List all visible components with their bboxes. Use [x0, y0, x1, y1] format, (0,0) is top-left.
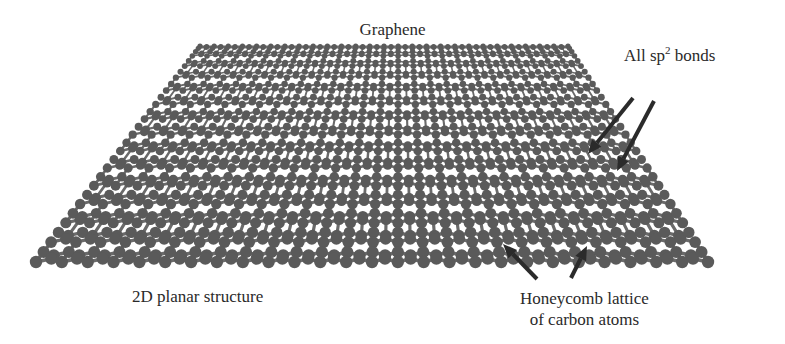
carbon-atom [120, 236, 132, 248]
carbon-atom [304, 190, 314, 200]
carbon-atom [492, 81, 498, 87]
carbon-atom [318, 131, 326, 139]
carbon-atom [275, 45, 280, 50]
carbon-atom [204, 131, 212, 139]
carbon-atom [284, 181, 294, 191]
carbon-atom [509, 208, 520, 219]
carbon-atom [219, 181, 229, 191]
carbon-atom [253, 178, 263, 188]
carbon-atom [452, 85, 459, 92]
carbon-atom [211, 199, 221, 209]
carbon-atom [156, 161, 165, 170]
carbon-atom [218, 45, 223, 50]
carbon-atom [234, 199, 244, 209]
carbon-atom [241, 113, 249, 121]
carbon-atom [556, 155, 565, 164]
carbon-atom [346, 81, 352, 87]
carbon-atom [209, 123, 217, 131]
carbon-atom [426, 63, 432, 69]
carbon-atom [547, 256, 559, 268]
carbon-atom [133, 256, 145, 268]
carbon-atom [378, 94, 385, 101]
carbon-atom [167, 178, 177, 188]
carbon-atom [610, 128, 618, 136]
carbon-atom [337, 85, 344, 92]
carbon-atom [563, 63, 569, 69]
carbon-atom [327, 94, 334, 101]
carbon-atom [282, 61, 288, 67]
carbon-atom [512, 178, 522, 188]
carbon-atom [516, 101, 523, 108]
carbon-atom [474, 75, 480, 81]
carbon-atom [277, 113, 285, 121]
carbon-atom [200, 108, 207, 115]
sp2-label-suffix: bonds [671, 46, 716, 65]
carbon-atom [483, 199, 493, 209]
carbon-atom [571, 108, 578, 115]
carbon-atom [184, 81, 190, 87]
carbon-atom [283, 98, 290, 105]
carbon-atom [404, 196, 414, 206]
carbon-atom [435, 163, 444, 172]
carbon-atom [170, 113, 178, 121]
carbon-atom [380, 63, 386, 69]
carbon-atom [473, 147, 482, 156]
carbon-atom [683, 227, 694, 238]
carbon-atom [198, 161, 207, 170]
carbon-atom [451, 214, 462, 225]
carbon-atom [309, 128, 317, 136]
carbon-atom [186, 58, 192, 64]
carbon-atom [342, 161, 351, 170]
carbon-atom [395, 58, 401, 64]
carbon-atom [574, 199, 584, 209]
carbon-atom [536, 108, 543, 115]
carbon-atom [579, 123, 587, 131]
carbon-atom [606, 172, 616, 182]
carbon-atom [671, 208, 682, 219]
carbon-atom [248, 53, 254, 59]
carbon-atom [201, 58, 207, 64]
carbon-atom [325, 144, 334, 153]
carbon-atom [261, 58, 267, 64]
carbon-atom [281, 233, 293, 245]
carbon-atom [593, 115, 601, 123]
carbon-atom [394, 123, 402, 131]
carbon-atom [648, 208, 659, 219]
carbon-atom [224, 69, 230, 75]
carbon-atom [85, 233, 97, 245]
carbon-atom [506, 98, 513, 105]
carbon-atom [258, 139, 266, 147]
carbon-atom [427, 75, 433, 81]
carbon-atom [286, 69, 292, 75]
carbon-atom [513, 147, 522, 156]
carbon-atom [479, 94, 486, 101]
carbon-atom [215, 147, 224, 156]
carbon-atom [581, 94, 588, 101]
carbon-atom [557, 81, 563, 87]
carbon-atom [302, 69, 308, 75]
carbon-atom [198, 73, 204, 79]
honeycomb-lattice-label: Honeycomb lattice of carbon atoms [520, 288, 649, 330]
carbon-atom [482, 190, 492, 200]
carbon-atom [502, 181, 512, 191]
carbon-atom [489, 131, 497, 139]
carbon-atom [212, 63, 218, 69]
carbon-atom [185, 256, 197, 268]
carbon-atom [129, 131, 137, 139]
carbon-atom [403, 128, 411, 136]
carbon-atom [352, 163, 361, 172]
carbon-atom [176, 181, 186, 191]
carbon-atom [320, 58, 326, 64]
carbon-atom [531, 45, 536, 50]
carbon-atom [447, 52, 452, 57]
carbon-atom [379, 75, 385, 81]
carbon-atom [577, 87, 584, 94]
carbon-atom [532, 208, 543, 219]
carbon-atom [331, 233, 343, 245]
carbon-atom [239, 161, 248, 170]
carbon-atom [395, 53, 401, 59]
carbon-atom [339, 123, 347, 131]
carbon-atom [430, 253, 442, 265]
carbon-atom [416, 208, 427, 219]
carbon-atom [534, 52, 539, 57]
